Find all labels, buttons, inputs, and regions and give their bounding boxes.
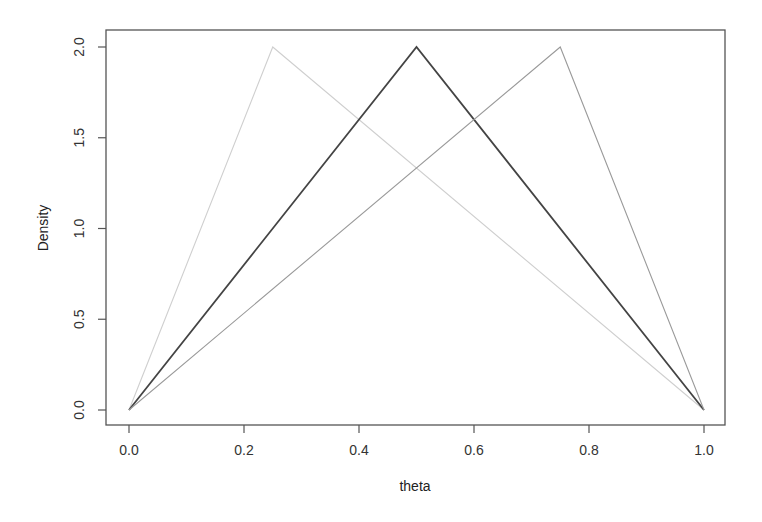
series-group [129,47,704,410]
x-axis: 0.00.20.40.60.81.0 [119,425,714,458]
x-tick-label: 0.6 [464,442,484,458]
y-tick-label: 0.5 [71,309,87,329]
x-tick-label: 0.0 [119,442,139,458]
y-tick-label: 2.0 [71,37,87,57]
y-tick-label: 0.0 [71,400,87,420]
series-line-1 [129,47,704,410]
series-line-2 [129,47,704,410]
y-axis: 0.00.51.01.52.0 [71,37,106,420]
series-line-3 [129,47,704,410]
density-chart: 0.00.20.40.60.81.0 0.00.51.01.52.0 theta… [0,0,762,522]
x-tick-label: 0.4 [349,442,369,458]
x-tick-label: 0.8 [579,442,599,458]
x-axis-title: theta [399,478,430,494]
y-tick-label: 1.5 [71,128,87,148]
y-tick-label: 1.0 [71,219,87,239]
x-tick-label: 1.0 [694,442,714,458]
x-tick-label: 0.2 [234,442,254,458]
y-axis-title: Density [35,205,51,252]
